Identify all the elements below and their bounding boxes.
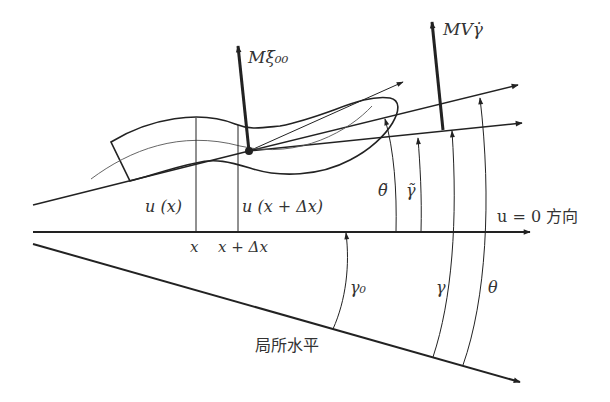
label-u-x: u (x): [145, 197, 182, 216]
label-gamma: γ: [436, 278, 446, 297]
label-gamma-tilde: γ̃: [406, 181, 416, 200]
label-local-horizontal: 局所水平: [255, 336, 319, 355]
angle-arc-gamma-tilde: [418, 138, 421, 232]
label-u-x-dx: u (x + Δx): [242, 197, 323, 216]
label-force-xi: Mξ̇₀₀: [247, 47, 289, 67]
label-theta: θ: [488, 278, 498, 297]
angle-arc-gamma0: [333, 233, 347, 329]
flight-angle-diagram: Mξ̇₀₀ MVγ̇ u (x) u (x + Δx) x x + Δx θ̃ …: [0, 0, 610, 402]
label-theta-tilde: θ̃: [378, 181, 388, 200]
label-gamma0: γ₀: [350, 278, 367, 297]
angle-arc-gamma: [433, 131, 454, 357]
body-shape: [111, 98, 398, 181]
theta-tilde-line: [249, 85, 518, 151]
gamma-tilde-line: [249, 123, 522, 151]
force-arrow-gamma: [432, 22, 443, 130]
label-x: x: [190, 238, 199, 256]
label-u-zero-direction: u = 0 方向: [497, 207, 578, 226]
label-x-dx: x + Δx: [218, 238, 268, 256]
label-force-gamma: MVγ̇: [442, 19, 484, 39]
body-axis-arrow: [249, 82, 403, 151]
local-horizontal-line: [33, 244, 520, 382]
